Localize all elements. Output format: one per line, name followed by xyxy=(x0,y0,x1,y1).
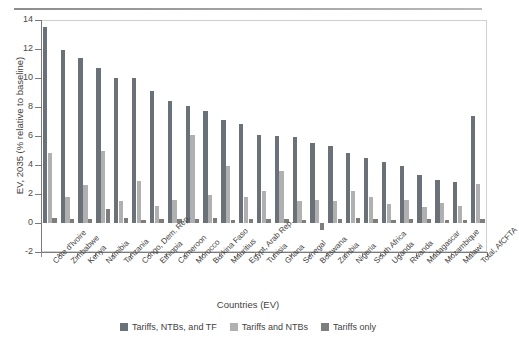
bar-2-18 xyxy=(351,191,355,223)
bar-3-22 xyxy=(427,219,431,223)
bar-3-12 xyxy=(249,219,253,223)
bar-1-20 xyxy=(382,162,386,223)
bar-1-3 xyxy=(78,58,82,223)
bar-3-11 xyxy=(231,220,235,223)
bar-2-9 xyxy=(190,135,194,223)
bar-1-8 xyxy=(168,101,172,223)
bar-3-15 xyxy=(302,220,306,223)
bar-3-24 xyxy=(463,220,467,223)
bar-2-1 xyxy=(48,153,52,223)
bar-2-24 xyxy=(458,206,462,223)
bar-1-18 xyxy=(346,153,350,223)
bar-2-20 xyxy=(387,204,391,223)
bar-3-10 xyxy=(213,218,217,223)
bar-2-8 xyxy=(172,200,176,223)
bar-1-25 xyxy=(471,116,475,223)
bar-2-13 xyxy=(262,191,266,223)
bar-2-19 xyxy=(369,197,373,223)
y-axis-title: EV, 2035 (% relative to baseline) xyxy=(14,11,25,241)
bar-1-23 xyxy=(435,180,439,224)
bar-2-10 xyxy=(208,195,212,223)
legend-label: Tariffs and NTBs xyxy=(242,322,308,332)
top-divider-rule xyxy=(14,8,482,10)
bar-1-24 xyxy=(453,182,457,223)
bar-2-22 xyxy=(422,207,426,223)
bar-3-6 xyxy=(141,220,145,223)
legend-swatch-icon xyxy=(230,323,238,331)
bar-2-25 xyxy=(476,184,480,223)
bar-3-5 xyxy=(124,218,128,223)
bar-1-10 xyxy=(203,111,207,223)
bar-2-23 xyxy=(440,203,444,223)
bar-1-9 xyxy=(186,106,190,223)
bar-3-1 xyxy=(52,218,56,223)
legend-item-1[interactable]: Tariffs, NTBs, and TF xyxy=(120,322,217,332)
chart-legend: Tariffs, NTBs, and TFTariffs and NTBsTar… xyxy=(0,322,496,332)
bar-2-17 xyxy=(333,201,337,223)
bar-3-23 xyxy=(445,220,449,223)
bar-2-3 xyxy=(83,185,87,223)
bar-2-15 xyxy=(297,201,301,223)
bar-1-14 xyxy=(275,136,279,223)
bar-1-6 xyxy=(132,78,136,223)
bar-3-2 xyxy=(70,219,74,223)
bar-1-7 xyxy=(150,91,154,223)
bar-3-21 xyxy=(409,219,413,223)
bar-3-25 xyxy=(480,219,484,223)
bar-3-13 xyxy=(266,219,270,223)
bar-1-2 xyxy=(61,50,65,223)
bar-2-11 xyxy=(226,166,230,223)
bar-2-12 xyxy=(244,197,248,223)
legend-swatch-icon xyxy=(120,323,128,331)
legend-label: Tariffs only xyxy=(333,322,376,332)
y-axis-tick-label: -2 xyxy=(3,247,33,256)
bar-2-2 xyxy=(65,197,69,223)
legend-label: Tariffs, NTBs, and TF xyxy=(132,322,217,332)
bar-1-4 xyxy=(96,68,100,223)
bar-1-11 xyxy=(221,120,225,223)
bar-3-4 xyxy=(106,209,110,224)
bar-3-16 xyxy=(320,223,324,230)
bar-3-17 xyxy=(338,219,342,223)
legend-item-3[interactable]: Tariffs only xyxy=(321,322,376,332)
bar-3-3 xyxy=(88,219,92,223)
bar-3-20 xyxy=(391,220,395,223)
bar-3-18 xyxy=(356,218,360,223)
bar-2-6 xyxy=(137,181,141,223)
bar-3-7 xyxy=(159,219,163,223)
bar-2-16 xyxy=(315,200,319,223)
bar-1-22 xyxy=(417,175,421,223)
plot-area xyxy=(41,20,487,252)
bar-1-13 xyxy=(257,135,261,223)
bar-1-21 xyxy=(400,166,404,223)
bar-1-17 xyxy=(328,146,332,223)
bar-2-7 xyxy=(155,206,159,223)
legend-item-2[interactable]: Tariffs and NTBs xyxy=(230,322,308,332)
bar-3-9 xyxy=(195,219,199,223)
legend-swatch-icon xyxy=(321,323,329,331)
bar-1-1 xyxy=(43,27,47,223)
bar-2-5 xyxy=(119,201,123,223)
bar-2-21 xyxy=(404,200,408,223)
x-axis-tick xyxy=(41,252,42,257)
bar-1-19 xyxy=(364,158,368,223)
bar-1-15 xyxy=(293,137,297,223)
x-axis-title: Countries (EV) xyxy=(0,299,496,310)
bar-2-4 xyxy=(101,151,105,224)
bar-1-5 xyxy=(114,78,118,223)
bar-1-16 xyxy=(310,143,314,223)
bar-3-19 xyxy=(373,219,377,223)
bar-2-14 xyxy=(279,171,283,223)
bar-1-12 xyxy=(239,124,243,223)
